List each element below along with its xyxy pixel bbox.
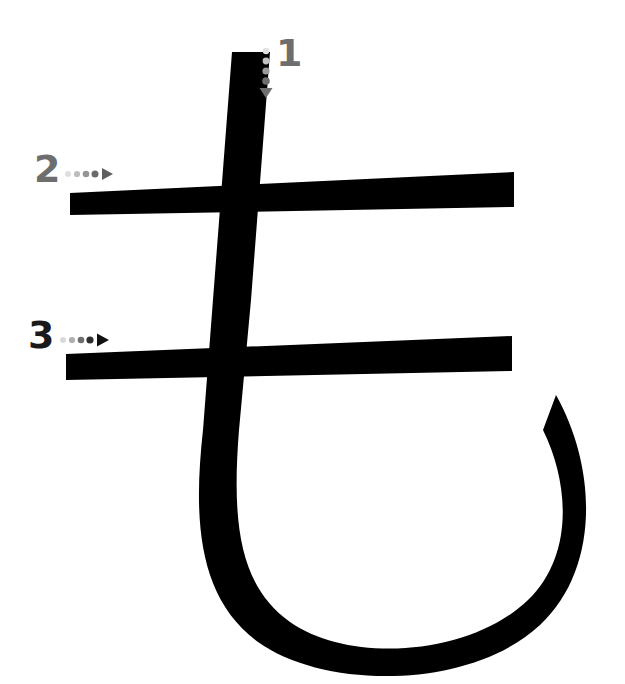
stroke-3-lower-horizontal-path	[66, 336, 512, 380]
stroke-direction-arrow-down-icon	[258, 46, 274, 98]
stroke-marker-3-number: 3	[28, 316, 53, 354]
stroke-direction-arrow-right-icon	[63, 166, 115, 182]
stroke-order-diagram: 1 2 3	[0, 0, 625, 684]
stroke-marker-3: 3	[28, 316, 111, 354]
stroke-marker-1-number: 1	[276, 34, 301, 72]
stroke-marker-1: 1	[258, 32, 301, 98]
stroke-2-upper-horizontal-path	[70, 172, 514, 215]
stroke-marker-2: 2	[34, 150, 115, 188]
stroke-direction-arrow-right-icon	[57, 332, 111, 348]
stroke-marker-2-number: 2	[34, 150, 59, 188]
